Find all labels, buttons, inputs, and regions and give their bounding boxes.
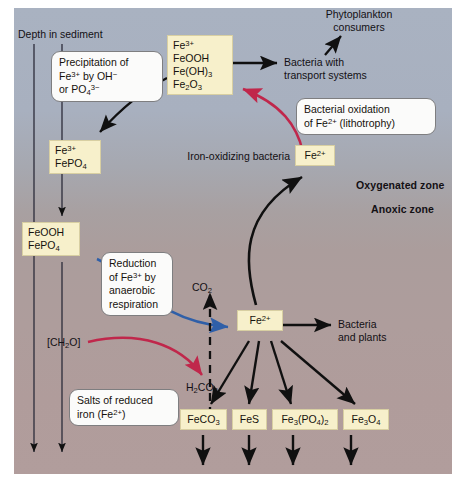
iron-cycle-figure: Depth in sediment Precipitation ofFe3+ b…	[0, 0, 452, 477]
chem-box-feco3: FeCO3	[180, 409, 227, 430]
chem-box-fes: FeS	[232, 409, 267, 430]
label-bacteria-plants: Bacteriaand plants	[338, 318, 386, 344]
chem-box-ferric-species: Fe3+FeOOHFe(OH)3Fe2O3	[167, 35, 233, 95]
label-oxygenated-zone: Oxygenated zone	[356, 179, 444, 192]
chem-box-ferric-phosphate: Fe3+FePO4	[49, 140, 101, 174]
chem-box-feooh-fepo4: FeOOHFePO4	[22, 222, 80, 256]
chem-box-fe3po42: Fe3(PO4)2	[272, 409, 338, 430]
chem-box-ferrous-oxic: Fe2+	[295, 145, 335, 166]
label-co2: CO2	[192, 281, 212, 294]
label-phytoplankton-consumers: Phytoplanktonconsumers	[311, 8, 407, 34]
depth-axis-label: Depth in sediment	[18, 28, 103, 41]
chem-box-ferrous-anoxic: Fe2+	[237, 310, 283, 331]
callout-salts: Salts of reducediron (Fe2+)	[69, 389, 179, 426]
label-bacteria-transport: Bacteria withtransport systems	[284, 56, 367, 82]
label-organic-matter: [CH2O]	[47, 336, 80, 349]
label-anoxic-zone: Anoxic zone	[371, 203, 434, 216]
label-h2co3: H2CO3	[186, 381, 218, 394]
callout-precipitation: Precipitation ofFe3+ by OH−or PO43−	[51, 51, 163, 102]
callout-reduction: Reductionof Fe3+ byanaerobicrespiration	[101, 252, 173, 316]
label-iron-oxidizing-bacteria: Iron-oxidizing bacteria	[185, 150, 290, 163]
chem-box-fe3o4: Fe3O4	[343, 409, 389, 430]
callout-bacterial-oxidation: Bacterial oxidationof Fe2+ (lithotrophy)	[296, 98, 436, 135]
